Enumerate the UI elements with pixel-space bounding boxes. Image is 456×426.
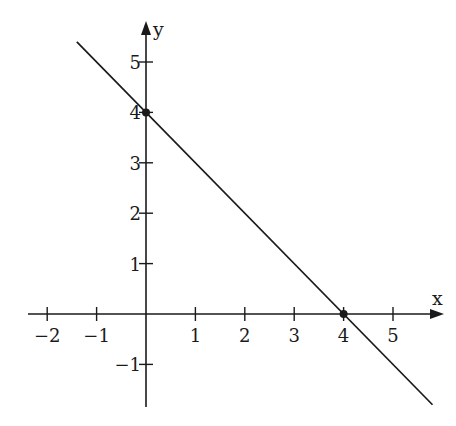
y-tick-label: −1 — [114, 354, 141, 375]
x-tick-label: −1 — [83, 325, 110, 346]
y-axis-label: y — [152, 18, 164, 40]
x-axis-label: x — [432, 287, 443, 309]
x-tick-label: 4 — [338, 325, 349, 346]
y-tick-label: 1 — [130, 254, 141, 275]
intercept-point — [340, 310, 348, 318]
y-tick-label: 3 — [130, 153, 141, 174]
intercept-point — [142, 108, 150, 116]
coordinate-plane: −2−112345−112345 x y — [0, 0, 456, 426]
x-tick-label: 1 — [190, 325, 201, 346]
x-axis-arrow-icon — [430, 309, 444, 319]
y-tick-label: 2 — [130, 203, 141, 224]
x-tick-label: 5 — [387, 325, 398, 346]
y-tick-label: 5 — [130, 52, 141, 73]
axes — [28, 21, 444, 407]
x-tick-label: 3 — [288, 325, 299, 346]
x-tick-label: 2 — [239, 325, 250, 346]
y-axis-arrow-icon — [141, 21, 151, 35]
ticks: −2−112345−112345 — [34, 52, 399, 375]
x-tick-label: −2 — [34, 325, 61, 346]
